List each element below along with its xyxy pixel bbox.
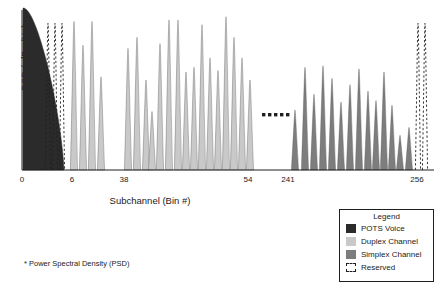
- spectrum-peak: [230, 37, 237, 170]
- x-axis-label: Subchannel (Bin #): [0, 195, 300, 206]
- legend-box: Legend POTS VoiceDuplex ChannelSimplex C…: [339, 209, 434, 282]
- spectrum-peak: [372, 100, 379, 170]
- legend-item-reserved: Reserved: [340, 261, 433, 274]
- spectrum-peak: [222, 17, 229, 170]
- spectrum-peak: [97, 77, 104, 170]
- spectrum-peak: [319, 66, 326, 170]
- axis-break-dot: [286, 113, 289, 116]
- spectrum-peak: [165, 20, 172, 170]
- legend-title: Legend: [340, 212, 433, 222]
- plot-area: [0, 0, 438, 178]
- legend-swatch-icon: [346, 250, 356, 259]
- spectrum-peak: [79, 45, 86, 170]
- spectrum-peak: [291, 110, 298, 170]
- spectrum-peak: [337, 102, 344, 170]
- series-duplex-channel: [70, 17, 253, 170]
- spectrum-peak: [88, 21, 95, 170]
- psd-spectrum-chart: PSD ( dBm/Hz) 063854241256 Subchannel (B…: [0, 0, 438, 291]
- spectrum-peak: [190, 67, 197, 170]
- legend-label: Simplex Channel: [361, 250, 421, 259]
- spectrum-peak: [214, 70, 221, 170]
- axis-break-dot: [274, 113, 277, 116]
- legend-label: Reserved: [361, 263, 395, 272]
- x-tick-54: 54: [244, 175, 253, 184]
- spectrum-peak: [355, 69, 362, 170]
- spectrum-peak: [206, 58, 213, 170]
- axis-break-dot: [268, 113, 271, 116]
- legend-rows: POTS VoiceDuplex ChannelSimplex ChannelR…: [340, 222, 433, 274]
- spectrum-peak: [148, 112, 155, 170]
- spectrum-peak: [124, 48, 131, 170]
- spectrum-peak: [198, 25, 205, 170]
- spectrum-peak: [246, 80, 253, 170]
- x-tick-38: 38: [120, 175, 129, 184]
- legend-item-duplex-channel: Duplex Channel: [340, 235, 433, 248]
- spectrum-peak: [328, 78, 335, 170]
- legend-item-simplex-channel: Simplex Channel: [340, 248, 433, 261]
- spectrum-peak: [156, 44, 163, 170]
- spectrum-peak: [396, 135, 403, 170]
- axis-break-dot: [262, 113, 265, 116]
- reserved-peak: [415, 23, 420, 170]
- x-tick-256: 256: [410, 175, 423, 184]
- legend-label: POTS Voice: [361, 224, 405, 233]
- chart-footnote: * Power Spectral Density (PSD): [24, 259, 129, 268]
- spectrum-peak: [70, 21, 77, 170]
- pots-voice-envelope: [23, 8, 64, 170]
- spectrum-peak: [405, 127, 412, 170]
- legend-label: Duplex Channel: [361, 237, 418, 246]
- legend-swatch-icon: [346, 263, 356, 272]
- spectrum-peak: [182, 72, 189, 170]
- spectrum-peak: [238, 58, 245, 170]
- spectrum-peak: [346, 85, 353, 170]
- spectrum-peak: [142, 80, 149, 170]
- reserved-peak: [422, 23, 427, 170]
- x-tick-6: 6: [70, 175, 74, 184]
- spectrum-peak: [133, 37, 140, 170]
- legend-swatch-icon: [346, 224, 356, 233]
- legend-item-pots-voice: POTS Voice: [340, 222, 433, 235]
- spectrum-peak: [301, 67, 308, 170]
- axis-break-dot: [280, 113, 283, 116]
- x-tick-0: 0: [20, 175, 24, 184]
- x-tick-241: 241: [281, 175, 294, 184]
- spectrum-peak: [380, 72, 387, 170]
- series-simplex-channel: [291, 66, 412, 170]
- spectrum-peak: [388, 105, 395, 170]
- spectrum-peak: [310, 94, 317, 170]
- series-reserved-high-band-: [415, 23, 427, 170]
- spectrum-peak: [364, 91, 371, 170]
- legend-swatch-icon: [346, 237, 356, 246]
- spectrum-peak: [174, 20, 181, 170]
